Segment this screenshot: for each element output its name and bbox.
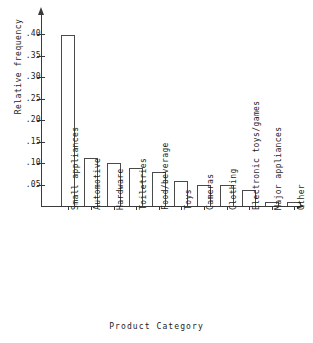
x-axis-tick — [204, 206, 205, 210]
x-axis-tick — [181, 206, 182, 210]
x-axis-tick — [136, 206, 137, 210]
x-axis-category-label: Toys — [185, 80, 193, 210]
bar-chart: .05.10.15.20.25.30.35.40 Relative freque… — [0, 0, 313, 343]
x-axis-tick — [294, 206, 295, 210]
x-axis-tick — [227, 206, 228, 210]
x-axis-category-label: Toiletries — [140, 80, 148, 210]
x-axis-category-label: Hardware — [117, 80, 125, 210]
x-axis-category-label: Clothing — [230, 80, 238, 210]
x-axis-tick — [114, 206, 115, 210]
y-axis-tick-label: .15 — [0, 138, 41, 146]
x-axis-category-label: Automotive — [94, 80, 102, 210]
x-axis-title: Product Category — [0, 322, 313, 331]
x-axis-tick — [91, 206, 92, 210]
y-axis-tick-label: .05 — [0, 181, 41, 189]
y-axis-tick-label: .10 — [0, 159, 41, 167]
x-axis-category-label: Major appliances — [275, 80, 283, 210]
y-axis-title: Relative frequency — [14, 7, 23, 127]
x-axis-category-label: Other — [298, 80, 306, 210]
x-axis-tick — [68, 206, 69, 210]
x-axis-category-label: Electronic toys/games — [253, 80, 261, 210]
x-axis-category-label: Food/beverage — [162, 80, 170, 210]
x-axis-tick — [249, 206, 250, 210]
x-axis-category-label: Small appliances — [72, 80, 80, 210]
x-axis-tick — [159, 206, 160, 210]
x-axis-tick — [272, 206, 273, 210]
x-axis-category-label: Cameras — [207, 80, 215, 210]
